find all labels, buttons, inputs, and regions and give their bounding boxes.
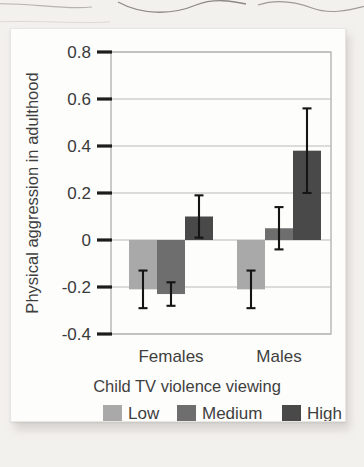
bar-chart: 0.8 0.6 0.4 0.2 0 -0.2 -0.4 Physical agg… [11,29,345,421]
y-tick-label-0p2: 0.2 [67,184,91,203]
y-tick-label-0p8: 0.8 [67,43,91,62]
legend-label-low: Low [128,404,160,421]
page-scan-artifact [0,0,364,26]
x-category-label-males: Males [256,347,301,366]
legend-swatch-high [282,405,301,421]
y-axis-tickmarks [97,52,112,334]
y-axis-title: Physical aggression in adulthood [23,72,41,313]
legend-label-medium: Medium [202,404,262,421]
x-category-label-females: Females [138,347,203,366]
legend-swatch-medium [177,405,196,421]
bars-layer [129,151,321,294]
y-tick-label-0: 0 [82,231,91,250]
figure-card: 0.8 0.6 0.4 0.2 0 -0.2 -0.4 Physical agg… [10,28,346,422]
legend-label-high: High [307,404,342,421]
y-tick-label-0p4: 0.4 [67,137,91,156]
y-tick-label-0p6: 0.6 [67,90,91,109]
x-axis-title: Child TV violence viewing [93,377,281,395]
chart-legend: Low Medium High [103,404,342,421]
y-tick-label-neg0p4: -0.4 [62,325,91,344]
y-tick-label-neg0p2: -0.2 [62,278,91,297]
legend-swatch-low [103,405,122,421]
y-axis-tick-labels: 0.8 0.6 0.4 0.2 0 -0.2 -0.4 [62,43,91,344]
